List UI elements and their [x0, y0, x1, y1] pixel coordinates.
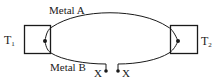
metal-a-wire — [45, 13, 178, 41]
terminal-left-dot — [104, 69, 108, 73]
terminal-right-dot — [116, 69, 120, 73]
reservoir-t1-box — [25, 26, 51, 54]
metal-a-label: Metal A — [49, 4, 85, 16]
metal-b-label: Metal B — [50, 61, 86, 73]
reservoir-t2-box — [171, 26, 198, 54]
thermocouple-diagram: Metal A Metal B T1 T2 X X — [0, 0, 219, 82]
terminal-left-x-label: X — [94, 67, 102, 79]
junction-t1-dot — [43, 39, 47, 43]
junction-t2-dot — [176, 39, 180, 43]
t2-label-sub: 2 — [208, 41, 212, 49]
t1-label-sub: 1 — [11, 40, 15, 48]
t1-label: T1 — [4, 33, 15, 48]
terminal-right-x-label: X — [122, 67, 130, 79]
t2-label: T2 — [201, 34, 212, 49]
